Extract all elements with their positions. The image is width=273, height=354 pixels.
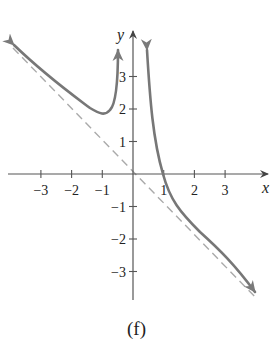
y-tick-label: −1	[111, 200, 126, 215]
y-tick-label: −2	[111, 232, 126, 247]
curve-right-branch	[147, 50, 255, 292]
curve-left-branch	[14, 45, 118, 114]
y-tick-label: 3	[119, 70, 126, 85]
figure-caption: (f)	[0, 318, 273, 340]
x-tick-label: 2	[191, 183, 198, 198]
y-axis-label: y	[115, 26, 125, 44]
x-tick-label: −2	[64, 183, 79, 198]
y-tick-label: −3	[111, 265, 126, 280]
x-tick-label: −1	[95, 183, 110, 198]
x-tick-label: 3	[222, 183, 229, 198]
x-axis-label: x	[261, 179, 269, 196]
y-tick-label: 1	[119, 135, 126, 150]
graph-plot: −3−2−1123−3−2−1123 y x	[0, 0, 273, 354]
y-tick-label: 2	[119, 102, 126, 117]
x-tick-label: −3	[33, 183, 48, 198]
